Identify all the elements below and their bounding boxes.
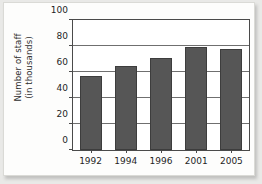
x-tick-mark — [91, 150, 92, 153]
y-tick-label: 60 — [57, 57, 68, 67]
y-tick-label: 0 — [62, 135, 68, 145]
scan-frame: Number of staff (in thousands) 020406080… — [0, 0, 262, 184]
x-tick-label: 1994 — [114, 156, 137, 166]
x-tick-slot: 2001 — [179, 20, 214, 150]
x-tick-slot: 2005 — [214, 20, 249, 150]
y-axis-title: Number of staff (in thousands) — [13, 3, 34, 133]
x-tick-mark — [196, 150, 197, 153]
y-axis-title-line-1: Number of staff — [13, 3, 24, 133]
y-tick-label: 100 — [51, 5, 68, 15]
y-axis-title-line-2: (in thousands) — [23, 3, 34, 133]
x-tick-label: 1992 — [79, 156, 102, 166]
x-tick-mark — [126, 150, 127, 153]
x-tick-slot: 1996 — [143, 20, 178, 150]
page-sheet: Number of staff (in thousands) 020406080… — [3, 2, 255, 176]
y-tick-label: 20 — [57, 109, 68, 119]
x-tick-mark — [161, 150, 162, 153]
y-tick-label: 80 — [57, 31, 68, 41]
y-tick-label: 40 — [57, 83, 68, 93]
x-tick-slot: 1992 — [73, 20, 108, 150]
x-tick-label: 1996 — [150, 156, 173, 166]
x-tick-slot: 1994 — [108, 20, 143, 150]
x-tick-mark — [231, 150, 232, 153]
bar-chart-figure: Number of staff (in thousands) 020406080… — [4, 3, 256, 177]
x-tick-label: 2005 — [220, 156, 243, 166]
x-tick-label: 2001 — [185, 156, 208, 166]
plot-area: 020406080100 19921994199620012005 — [72, 19, 250, 151]
